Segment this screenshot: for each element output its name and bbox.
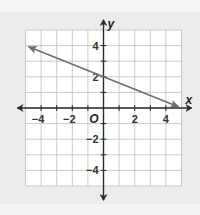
x-tick-label: −4	[32, 113, 45, 125]
x-tick-label: 2	[132, 113, 138, 125]
x-tick-label: 4	[163, 113, 170, 125]
y-axis-label: y	[107, 17, 116, 31]
y-tick-label: −4	[86, 164, 99, 176]
y-tick-label: 4	[92, 40, 99, 52]
origin-label: O	[89, 112, 99, 126]
x-tick-label: −2	[63, 113, 76, 125]
y-tick-label: −2	[86, 133, 99, 145]
x-axis-label: x	[185, 93, 194, 107]
coordinate-plane: −4−22442−2−4Oxy	[0, 0, 200, 215]
